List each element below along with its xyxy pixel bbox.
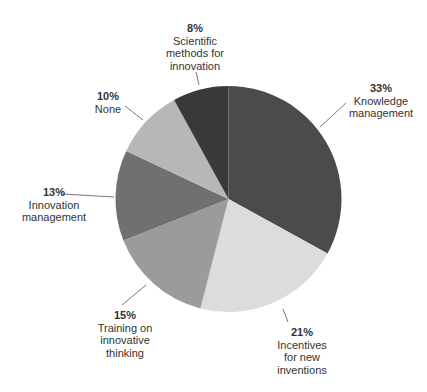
- leader-line-incentives: [283, 309, 288, 322]
- label-text: Knowledge management: [336, 95, 426, 120]
- label-pct: 8%: [150, 22, 240, 35]
- label-training: 15% Training on innovative thinking: [80, 309, 170, 359]
- label-pct: 13%: [14, 186, 94, 199]
- label-text: Innovation management: [14, 199, 94, 224]
- label-text: Training on innovative thinking: [80, 322, 170, 360]
- pie-slices: [116, 86, 342, 312]
- leader-line-scientific: [196, 72, 199, 85]
- leader-line-training: [122, 285, 146, 305]
- leader-line-none: [125, 106, 143, 120]
- label-incentives: 21% Incentives for new inventions: [262, 326, 342, 376]
- label-none: 10% None: [90, 90, 126, 115]
- label-text: None: [90, 103, 126, 116]
- label-innovation: 13% Innovation management: [14, 186, 94, 224]
- label-text: Scientific methods for innovation: [150, 35, 240, 73]
- label-pct: 21%: [262, 326, 342, 339]
- label-knowledge: 33% Knowledge management: [336, 82, 426, 120]
- label-scientific: 8% Scientific methods for innovation: [150, 22, 240, 72]
- label-pct: 10%: [90, 90, 126, 103]
- label-text: Incentives for new inventions: [262, 339, 342, 377]
- label-pct: 33%: [336, 82, 426, 95]
- label-pct: 15%: [80, 309, 170, 322]
